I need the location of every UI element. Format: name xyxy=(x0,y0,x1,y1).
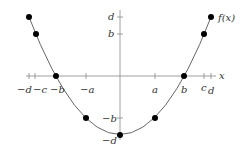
ytick-b: b xyxy=(108,28,114,39)
tick-d: d xyxy=(208,85,214,96)
ytick-neg-b: −b xyxy=(102,113,117,124)
tick-neg-a: −a xyxy=(80,84,94,95)
tick-b: b xyxy=(181,84,187,95)
tick-neg-d: −d xyxy=(17,84,32,95)
tick-neg-c: −c xyxy=(33,84,47,95)
parabola-diagram: x f(x) −d −c −b −a a b c d d b −b −d xyxy=(0,0,243,155)
tick-c: c xyxy=(201,82,207,93)
tick-neg-b: −b xyxy=(50,84,65,95)
x-axis-label: x xyxy=(219,70,225,81)
curve-label: f(x) xyxy=(217,12,235,23)
ytick-neg-d: −d xyxy=(102,135,117,146)
tick-a: a xyxy=(152,84,158,95)
ytick-d: d xyxy=(108,11,114,22)
